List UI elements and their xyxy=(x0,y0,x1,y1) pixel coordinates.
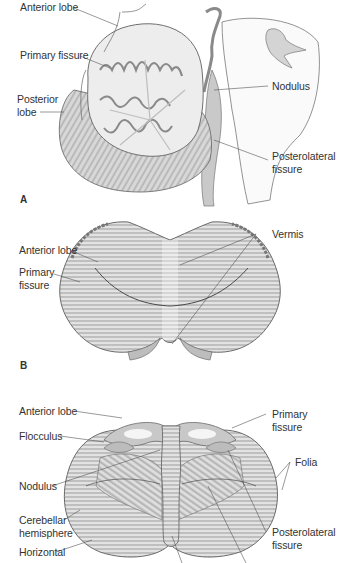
label-a-primary-fissure: Primary fissure xyxy=(20,49,89,61)
label-b-primary-fissure-line1: Primary xyxy=(19,266,54,278)
label-c-nodulus: Nodulus xyxy=(19,480,57,492)
label-c-flocculus: Flocculus xyxy=(19,430,62,442)
label-a-posterior-lobe-line1: Posterior xyxy=(17,93,58,105)
label-c-anterior-lobe: Anterior lobe xyxy=(19,405,77,417)
label-a-posterolateral-fissure-line1: Posterolateral xyxy=(272,150,335,162)
label-c-cerebellar-hemisphere-line2: hemisphere xyxy=(19,527,73,539)
panel-b-illustration xyxy=(60,222,281,360)
label-c-primary-fissure-line2: fissure xyxy=(272,421,302,433)
panel-letter-a: A xyxy=(20,194,27,205)
cerebellum-figure: Anterior lobe Primary fissure Posterior … xyxy=(0,0,341,563)
label-c-posterolateral-fissure-line2: fissure xyxy=(272,539,302,551)
label-a-anterior-lobe: Anterior lobe xyxy=(20,1,78,13)
label-c-cerebellar-hemisphere-line1: Cerebellar xyxy=(19,514,66,526)
panel-a-illustration xyxy=(59,4,319,206)
label-c-primary-fissure-line1: Primary xyxy=(272,408,307,420)
label-a-posterior-lobe-line2: lobe xyxy=(17,106,36,118)
label-b-anterior-lobe: Anterior lobe xyxy=(19,244,77,256)
label-b-primary-fissure-line2: fissure xyxy=(19,279,49,291)
label-c-posterolateral-fissure-line1: Posterolateral xyxy=(272,526,335,538)
label-b-vermis: Vermis xyxy=(272,228,304,240)
label-c-horizontal: Horizontal xyxy=(19,546,65,558)
label-a-nodulus: Nodulus xyxy=(272,80,310,92)
panel-letter-b: B xyxy=(20,360,27,371)
label-a-posterolateral-fissure-line2: fissure xyxy=(272,163,302,175)
panel-c-illustration xyxy=(64,422,277,557)
label-c-folia: Folia xyxy=(295,456,317,468)
